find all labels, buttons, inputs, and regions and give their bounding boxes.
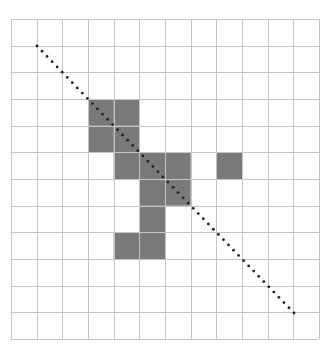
diagonal-dot (288, 306, 291, 309)
filled-cell (216, 152, 242, 179)
filled-cell (139, 232, 165, 259)
diagonal-dot (217, 233, 220, 236)
diagonal-dot (126, 139, 129, 142)
diagonal-dot (111, 123, 114, 126)
diagonal-dot (192, 207, 195, 210)
diagonal-dot (182, 196, 185, 199)
diagonal-dot (247, 264, 250, 267)
diagonal-dot (232, 249, 235, 252)
filled-cell (114, 152, 140, 179)
diagonal-dot (41, 50, 44, 53)
diagonal-dot (172, 186, 175, 189)
diagonal-dot (66, 76, 69, 79)
diagonal-dot (116, 128, 119, 131)
diagonal-dot (187, 202, 190, 205)
diagonal-dot (61, 71, 64, 74)
filled-cell (139, 206, 165, 233)
diagonal-dot (141, 155, 144, 158)
diagonal-dot (257, 275, 260, 278)
grid-canvas (0, 0, 329, 344)
diagonal-dot (212, 228, 215, 231)
filled-cell (139, 179, 165, 206)
diagonal-dot (101, 113, 104, 116)
diagonal-dot (81, 92, 84, 95)
diagonal-dot (277, 296, 280, 299)
diagonal-dot (71, 81, 74, 84)
diagonal-dot (222, 238, 225, 241)
diagonal-dot (146, 160, 149, 163)
diagonal-dot (197, 212, 200, 215)
diagonal-dot (202, 217, 205, 220)
diagonal-dot (76, 86, 79, 89)
filled-cell (88, 126, 114, 153)
diagonal-dot (272, 291, 275, 294)
diagonal-dot (152, 165, 155, 168)
diagonal-dot (131, 144, 134, 147)
diagonal-dot (177, 191, 180, 194)
diagonal-dot (162, 175, 165, 178)
diagonal-dot (293, 312, 296, 315)
diagonal-dot (91, 102, 94, 105)
diagonal-dot (267, 285, 270, 288)
diagonal-dot (157, 170, 160, 173)
diagonal-dot (227, 244, 230, 247)
diagonal-dot (167, 181, 170, 184)
diagonal-dot (56, 66, 59, 69)
diagonal-dot (36, 45, 39, 48)
filled-cell (165, 152, 191, 179)
diagonal-dot (242, 259, 245, 262)
diagonal-dot (283, 301, 286, 304)
diagonal-dot (136, 149, 139, 152)
diagonal-dot (86, 97, 89, 100)
diagonal-dot (51, 60, 54, 63)
diagonal-dot (237, 254, 240, 257)
diagonal-dot (252, 270, 255, 273)
grid-diagram (0, 0, 329, 344)
filled-cell (114, 99, 140, 126)
diagonal-dot (96, 107, 99, 110)
diagonal-dot (262, 280, 265, 283)
filled-cell (114, 232, 140, 259)
diagonal-dot (46, 55, 49, 58)
diagonal-dot (106, 118, 109, 121)
diagonal-dot (207, 223, 210, 226)
diagonal-dot (121, 134, 124, 137)
